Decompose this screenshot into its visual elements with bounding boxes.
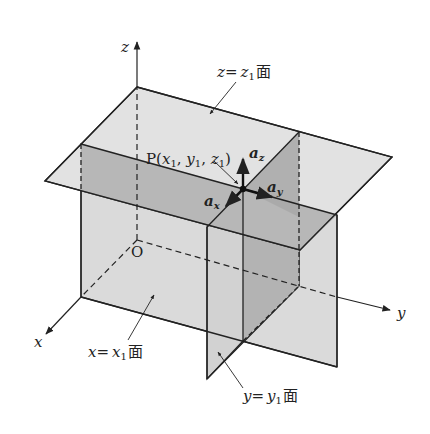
x-axis-label: x [34,333,43,351]
x-axis [46,297,81,334]
z-plane-label: z=z1面 [216,63,271,82]
point-p-label: P(x1, y1, z1) [146,150,231,169]
y-axis-label: y [396,304,406,322]
y-plane-label: y=y1面 [242,387,298,406]
z-axis-label: z [120,38,129,56]
y-axis [337,297,390,310]
y-plane-leader [218,352,243,388]
coordinate-planes-diagram: z x y O P(x1, y1, z1) az ay ax z=z1面 x=x… [0,0,430,434]
x-plane-label: x=x1面 [88,343,143,362]
z-plane-leader [210,82,236,114]
origin-label: O [131,243,143,261]
